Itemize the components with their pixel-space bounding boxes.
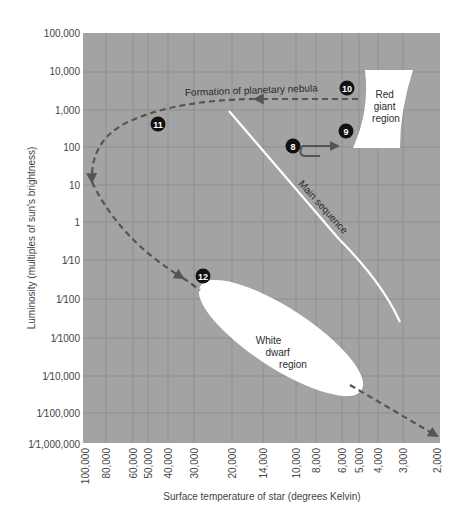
svg-text:1⁄10,000: 1⁄10,000 bbox=[42, 371, 80, 382]
hr-diagram: 100,000 10,000 1,000 100 10 1 1⁄10 1⁄100… bbox=[0, 0, 460, 511]
svg-text:12: 12 bbox=[198, 272, 208, 282]
svg-text:20,000: 20,000 bbox=[227, 448, 238, 479]
svg-text:30,000: 30,000 bbox=[189, 448, 200, 479]
marker-8: 8 bbox=[286, 139, 301, 154]
marker-12: 12 bbox=[196, 269, 211, 284]
svg-text:8,000: 8,000 bbox=[311, 448, 322, 473]
svg-text:60,000: 60,000 bbox=[128, 448, 139, 479]
svg-text:11: 11 bbox=[153, 120, 163, 130]
svg-text:6,000: 6,000 bbox=[337, 448, 348, 473]
svg-text:1⁄100: 1⁄100 bbox=[56, 294, 80, 305]
red-giant-label: Red giant region bbox=[372, 89, 400, 124]
x-axis-title: Surface temperature of star (degrees Kel… bbox=[163, 491, 360, 502]
svg-text:100,000: 100,000 bbox=[44, 28, 81, 39]
marker-11: 11 bbox=[151, 117, 166, 132]
svg-text:10,000: 10,000 bbox=[291, 448, 302, 479]
svg-text:2,000: 2,000 bbox=[432, 448, 443, 473]
svg-text:1⁄1000: 1⁄1000 bbox=[51, 333, 81, 344]
svg-text:3,000: 3,000 bbox=[398, 448, 409, 473]
svg-text:100,000: 100,000 bbox=[80, 448, 91, 485]
svg-text:1⁄1,000,000: 1⁄1,000,000 bbox=[28, 439, 80, 450]
svg-text:40,000: 40,000 bbox=[163, 448, 174, 479]
svg-text:4,000: 4,000 bbox=[373, 448, 384, 473]
y-axis-title: Luminosity (multiples of sun's brightnes… bbox=[26, 147, 37, 330]
svg-text:50,000: 50,000 bbox=[143, 448, 154, 479]
svg-text:80,000: 80,000 bbox=[101, 448, 112, 479]
svg-text:1⁄100,000: 1⁄100,000 bbox=[37, 408, 81, 419]
svg-text:8: 8 bbox=[290, 142, 295, 152]
svg-text:9: 9 bbox=[343, 127, 348, 137]
svg-text:1,000: 1,000 bbox=[55, 105, 80, 116]
svg-text:100: 100 bbox=[63, 142, 80, 153]
x-axis-ticks: 100,000 80,000 60,000 50,000 40,000 30,0… bbox=[80, 448, 443, 485]
marker-10: 10 bbox=[340, 81, 355, 96]
svg-text:5,000: 5,000 bbox=[354, 448, 365, 473]
svg-text:10,000: 10,000 bbox=[49, 66, 80, 77]
svg-text:1: 1 bbox=[74, 217, 80, 228]
svg-text:1⁄10: 1⁄10 bbox=[62, 255, 81, 266]
svg-text:14,000: 14,000 bbox=[258, 448, 269, 479]
marker-9: 9 bbox=[339, 124, 354, 139]
svg-text:10: 10 bbox=[69, 180, 81, 191]
svg-text:10: 10 bbox=[342, 84, 352, 94]
